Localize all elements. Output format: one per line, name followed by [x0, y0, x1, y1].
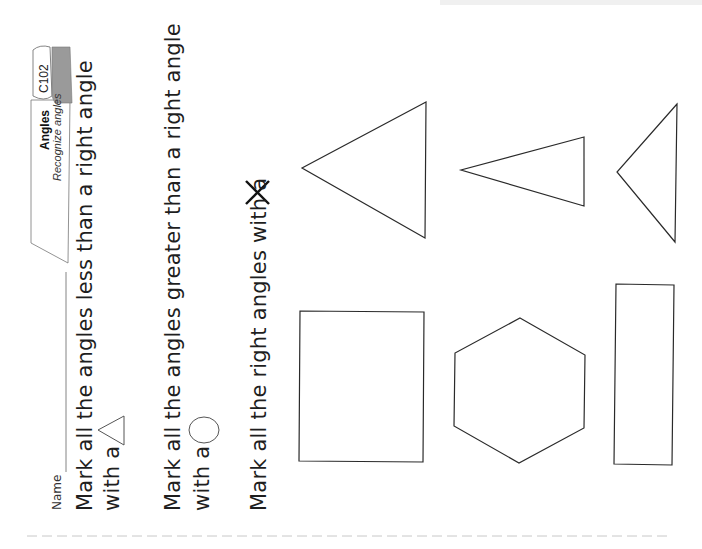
instruction-3-line1: Mark all the right angles with a	[247, 178, 271, 511]
worksheet-title: Angles	[38, 110, 52, 150]
large-triangle	[302, 102, 426, 238]
instruction-2-line2: with a	[190, 446, 214, 511]
triangle-icon	[98, 416, 124, 445]
worksheet-subtitle: Recognize angles	[51, 94, 63, 181]
rectangle	[614, 284, 674, 465]
square	[299, 311, 424, 462]
worksheet-code: C102	[37, 64, 51, 93]
circle-icon	[189, 417, 219, 443]
instruction-2-line1: Mark all the angles greater than a right…	[161, 23, 185, 511]
hexagon	[454, 318, 585, 463]
instruction-1-line1: Mark all the angles less than a right an…	[73, 60, 97, 511]
narrow-triangle	[461, 137, 584, 206]
name-input[interactable]	[52, 272, 66, 472]
instruction-1-line2: with a	[100, 446, 124, 511]
name-label: Name	[50, 475, 64, 510]
right-triangle	[617, 104, 677, 242]
